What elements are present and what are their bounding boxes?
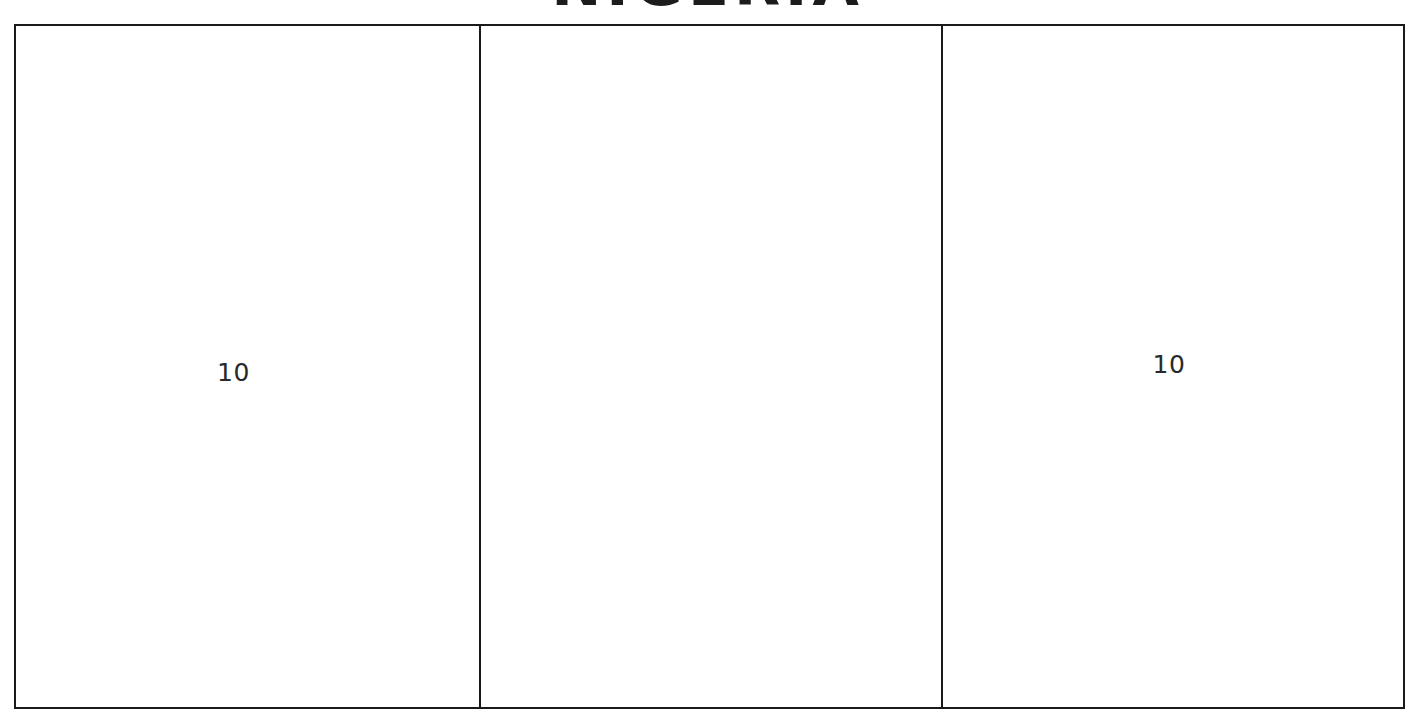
flag-outline-rectangle: 10 10 bbox=[14, 24, 1405, 709]
title-area: NIGERIA bbox=[0, 0, 1415, 20]
flag-band-fly: 10 bbox=[943, 26, 1403, 707]
flag-band-hoist: 10 bbox=[16, 26, 481, 707]
band-measure-label: 10 bbox=[217, 358, 250, 387]
flag-band-middle bbox=[481, 26, 943, 707]
page-title: NIGERIA bbox=[0, 0, 1415, 14]
band-measure-label: 10 bbox=[1153, 350, 1186, 379]
